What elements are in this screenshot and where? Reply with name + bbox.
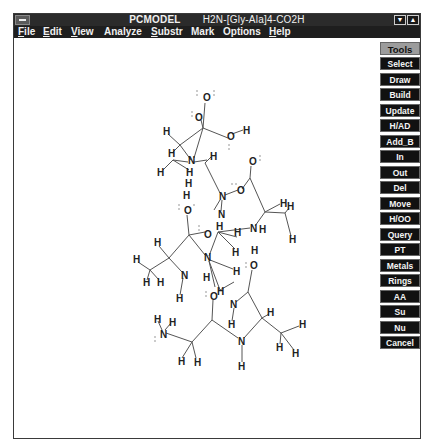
svg-text:H: H xyxy=(233,266,240,277)
svg-text:H: H xyxy=(234,227,241,238)
bonds xyxy=(138,103,299,362)
svg-text:O: O xyxy=(249,156,257,167)
svg-text:H: H xyxy=(217,286,224,297)
svg-text:O: O xyxy=(227,131,235,142)
svg-text:N: N xyxy=(219,191,226,202)
svg-text:O: O xyxy=(203,92,211,103)
svg-text:H: H xyxy=(292,348,299,359)
svg-text:H: H xyxy=(154,314,161,325)
svg-text:N: N xyxy=(230,299,237,310)
svg-text:H: H xyxy=(228,319,235,330)
svg-text:H: H xyxy=(267,307,274,318)
svg-text:H: H xyxy=(176,293,183,304)
svg-text:H: H xyxy=(186,167,193,178)
svg-text:N: N xyxy=(204,252,211,263)
svg-text:H: H xyxy=(178,356,185,367)
svg-text:H: H xyxy=(183,190,190,201)
svg-text:H: H xyxy=(157,167,164,178)
svg-text:H: H xyxy=(259,224,266,235)
svg-text:H: H xyxy=(143,277,150,288)
svg-text:H: H xyxy=(251,245,258,256)
svg-text:N: N xyxy=(188,155,195,166)
svg-text:H: H xyxy=(154,237,161,248)
svg-text:O: O xyxy=(237,185,245,196)
molecule-structure[interactable]: OOOH HHNH HHHO NOHH HONH ONHH HNHH HHHN … xyxy=(0,0,426,446)
svg-text:H: H xyxy=(194,357,201,368)
svg-text:H: H xyxy=(157,277,164,288)
svg-text:O: O xyxy=(204,229,212,240)
svg-text:H: H xyxy=(238,361,245,372)
svg-text:N: N xyxy=(160,329,167,340)
svg-text:H: H xyxy=(287,201,294,212)
svg-text:H: H xyxy=(168,148,175,159)
svg-text:H: H xyxy=(210,151,217,162)
svg-text:N: N xyxy=(218,209,225,220)
svg-text:O: O xyxy=(210,291,218,302)
svg-text:O: O xyxy=(195,112,203,123)
svg-text:H: H xyxy=(276,342,283,353)
svg-text:N: N xyxy=(238,336,245,347)
svg-text:H: H xyxy=(232,247,239,258)
svg-text:H: H xyxy=(133,254,140,265)
svg-text:H: H xyxy=(169,317,176,328)
svg-text:H: H xyxy=(299,319,306,330)
svg-text:H: H xyxy=(289,234,296,245)
svg-text:N: N xyxy=(181,270,188,281)
svg-text:H: H xyxy=(216,221,223,232)
svg-text:O: O xyxy=(250,260,258,271)
svg-text:H: H xyxy=(243,125,250,136)
svg-text:N: N xyxy=(250,223,257,234)
svg-text:H: H xyxy=(163,126,170,137)
svg-text:H: H xyxy=(185,178,192,189)
svg-text:H: H xyxy=(203,272,210,283)
svg-text:O: O xyxy=(184,205,192,216)
